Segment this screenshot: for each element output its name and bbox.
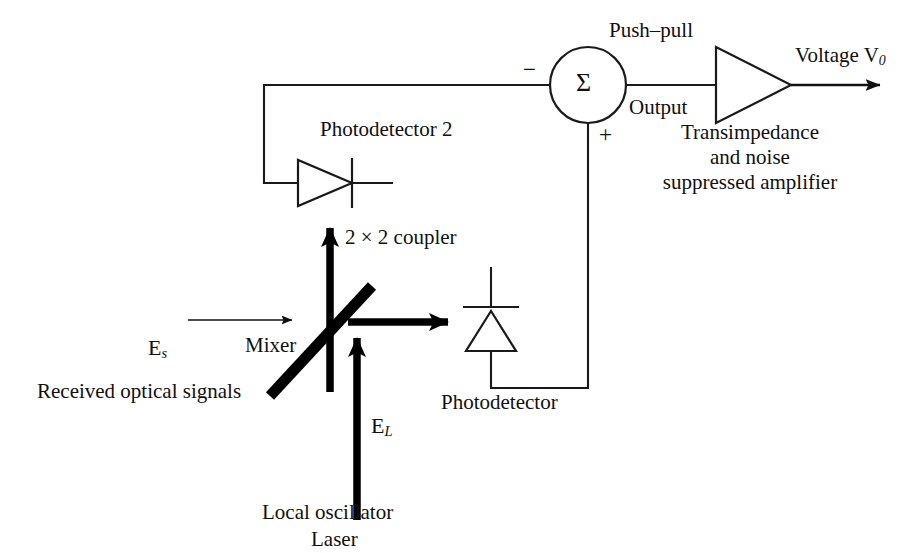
- voltage-output-label: Voltage V0: [795, 43, 886, 69]
- lo-field-symbol: E: [371, 413, 384, 438]
- amplifier-caption-line-2: and noise: [630, 145, 870, 170]
- received-optical-signals-label: Received optical signals: [37, 379, 241, 404]
- sigma-symbol-label: Σ: [576, 68, 591, 99]
- amplifier-caption-line-3: suppressed amplifier: [630, 170, 870, 195]
- photodetector-2-diode-symbol: [298, 160, 352, 206]
- signal-field-symbol: E: [148, 335, 161, 360]
- signal-field-subscript: s: [161, 345, 167, 361]
- diagram-vector-layer: [0, 0, 924, 553]
- voltage-output-word: Voltage: [795, 43, 859, 67]
- diagram-canvas: Push–pull Output − + Σ Voltage V0 Transi…: [0, 0, 924, 553]
- lo-field-subscript: L: [384, 423, 392, 439]
- photodetector-1-diode-symbol: [466, 311, 516, 351]
- signal-field-label: Es: [148, 335, 167, 362]
- photodetector-2-label: Photodetector 2: [320, 117, 452, 142]
- photodetector-1-label: Photodetector: [441, 390, 558, 415]
- output-label: Output: [629, 95, 687, 120]
- plus-sign-label: +: [599, 122, 612, 148]
- laser-label: Laser: [311, 527, 358, 552]
- coupler-label: 2 × 2 coupler: [345, 225, 457, 250]
- voltage-symbol: V: [864, 43, 879, 67]
- minus-sign-label: −: [523, 57, 536, 83]
- lo-field-label: EL: [371, 413, 393, 440]
- transimpedance-amplifier-symbol: [716, 47, 791, 123]
- amplifier-caption: Transimpedance and noise suppressed ampl…: [630, 120, 870, 194]
- push-pull-label: Push–pull: [609, 18, 693, 43]
- amplifier-caption-line-1: Transimpedance: [630, 120, 870, 145]
- local-oscillator-label: Local oscillator: [262, 500, 393, 525]
- mixer-label: Mixer: [245, 333, 296, 358]
- voltage-subscript: 0: [879, 53, 886, 68]
